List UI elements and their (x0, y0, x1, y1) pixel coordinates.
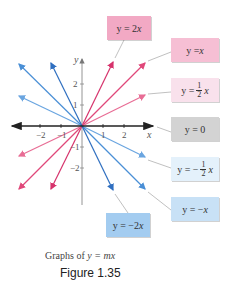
line-y-2x (82, 62, 113, 126)
label-text: y = −2 (113, 220, 139, 231)
label-text: y = − (177, 164, 198, 175)
label-var: x (137, 23, 141, 34)
label-text: y = 2 (116, 23, 137, 34)
label-text: y = 0 (185, 124, 206, 135)
label-y-2x: y = 2x (107, 16, 151, 40)
figure: −2 −1 1 2 x 2 1 −1 −2 y y = 2x y = x y =… (0, 0, 234, 282)
y-tick-1: 1 (73, 100, 78, 110)
label-text: y = − (182, 204, 203, 215)
figure-title: Figure 1.35 (60, 266, 121, 280)
line-y-neg-2x (51, 63, 82, 126)
y-tick-2: 2 (73, 79, 78, 89)
y-tick-neg1: −1 (70, 142, 80, 152)
label-y-x: y = x (171, 38, 219, 62)
line-y-x (82, 63, 145, 126)
label-var: x (204, 85, 208, 96)
label-text: y = (181, 85, 194, 96)
label-var: x (199, 45, 203, 56)
x-tick-neg1: −1 (57, 130, 67, 140)
line-y-neg-half-x-pos (82, 126, 145, 157)
x-tick-2: 2 (122, 130, 127, 140)
y-tick-neg2: −2 (70, 163, 80, 173)
denominator: 2 (197, 91, 201, 99)
label-var: x (203, 204, 207, 215)
line-y-neg-x-pos (82, 126, 145, 189)
label-y-neg-x: y = −x (171, 197, 219, 221)
y-axis-label: y (73, 54, 79, 65)
label-var: x (208, 164, 212, 175)
x-axis-label: x (146, 129, 152, 140)
fraction: 12 (200, 161, 206, 178)
label-y-neg-half-x: y = − 12 x (171, 157, 219, 181)
label-var: x (139, 220, 143, 231)
label-text: y = (186, 45, 199, 56)
fraction: 12 (196, 82, 202, 99)
line-y-neg-2x-pos (82, 126, 113, 190)
label-y-neg-2x: y = −2x (106, 213, 150, 237)
label-y-half-x: y = 12 x (171, 78, 219, 102)
figure-caption: Graphs of y = mx (45, 250, 115, 261)
caption-math: y = mx (87, 250, 115, 261)
x-tick-neg2: −2 (36, 130, 46, 140)
line-y-x-neg (19, 126, 82, 189)
label-y-0: y = 0 (171, 117, 219, 141)
caption-prefix: Graphs of (45, 250, 87, 261)
line-y-half-x (82, 95, 145, 126)
denominator: 2 (201, 170, 205, 178)
line-y-neg-x (19, 64, 82, 126)
x-tick-1: 1 (101, 130, 106, 140)
